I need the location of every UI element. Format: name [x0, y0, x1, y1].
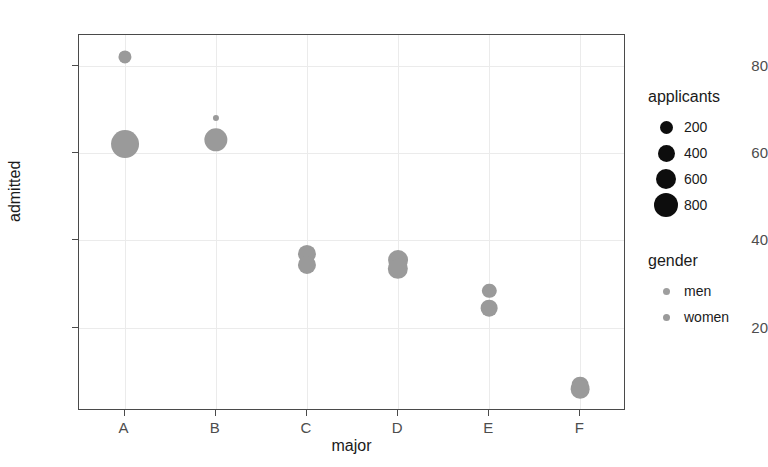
- legend-applicants-title: applicants: [648, 88, 760, 106]
- chart-canvas: admitted major applicants 200400600800 g…: [0, 0, 768, 467]
- gridline-horizontal: [79, 66, 624, 67]
- y-tick-label: 20: [702, 318, 768, 335]
- gridline-vertical: [307, 35, 308, 409]
- y-tick-label: 60: [702, 144, 768, 161]
- data-point: [388, 259, 408, 279]
- legend-applicants-label: 800: [684, 197, 707, 213]
- legend-applicants-key-icon: [648, 121, 684, 134]
- y-tick-mark: [72, 65, 78, 66]
- data-point: [118, 50, 131, 63]
- legend-gender-item[interactable]: men: [648, 278, 760, 304]
- data-point: [482, 284, 496, 298]
- legend-applicants-item[interactable]: 200: [648, 114, 760, 140]
- legend-area: applicants 200400600800 gender menwomen: [648, 88, 760, 330]
- data-point: [298, 255, 316, 273]
- gridline-horizontal: [79, 240, 624, 241]
- x-tick-mark: [397, 410, 398, 416]
- gridline-vertical: [398, 35, 399, 409]
- gridline-vertical: [216, 35, 217, 409]
- x-tick-mark: [306, 410, 307, 416]
- gridline-vertical: [489, 35, 490, 409]
- x-tick-label: B: [210, 419, 220, 436]
- y-axis-title: admitted: [6, 161, 24, 222]
- legend-gender-label: men: [684, 283, 711, 299]
- legend-applicants-key-icon: [648, 169, 684, 189]
- gridline-horizontal: [79, 328, 624, 329]
- legend-gender-key-icon: [648, 288, 684, 295]
- legend-gender-title: gender: [648, 252, 760, 270]
- legend-applicants-item[interactable]: 600: [648, 166, 760, 192]
- gridline-horizontal: [79, 153, 624, 154]
- y-tick-label: 40: [702, 231, 768, 248]
- data-point: [204, 128, 227, 151]
- legend-applicants-item[interactable]: 800: [648, 192, 760, 218]
- y-tick-mark: [72, 152, 78, 153]
- y-tick-mark: [72, 327, 78, 328]
- legend-gender-key-icon: [648, 314, 684, 321]
- legend-applicants-label: 200: [684, 119, 707, 135]
- x-tick-label: F: [575, 419, 584, 436]
- data-point: [571, 380, 590, 399]
- y-tick-mark: [72, 239, 78, 240]
- x-tick-mark: [124, 410, 125, 416]
- plot-panel: [78, 34, 625, 410]
- x-tick-label: A: [119, 419, 129, 436]
- x-tick-mark: [215, 410, 216, 416]
- x-tick-label: C: [300, 419, 311, 436]
- x-tick-mark: [488, 410, 489, 416]
- data-point: [481, 300, 498, 317]
- y-tick-label: 80: [702, 56, 768, 73]
- legend-applicants-key-icon: [648, 145, 684, 162]
- x-tick-label: E: [483, 419, 493, 436]
- x-tick-label: D: [392, 419, 403, 436]
- data-point: [111, 130, 139, 158]
- x-tick-mark: [579, 410, 580, 416]
- x-axis-title: major: [78, 437, 625, 455]
- legend-applicants-label: 600: [684, 171, 707, 187]
- legend-applicants-key-icon: [648, 193, 684, 217]
- data-point: [213, 115, 219, 121]
- gridline-vertical: [580, 35, 581, 409]
- gridline-vertical: [125, 35, 126, 409]
